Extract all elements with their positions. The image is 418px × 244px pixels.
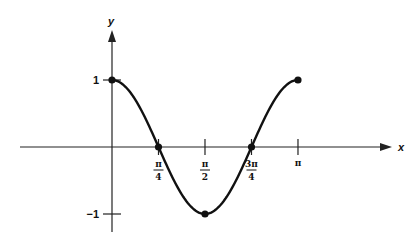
x-axis: x	[20, 141, 405, 153]
y-axis-arrow-icon	[108, 30, 116, 42]
y-axis: y	[107, 15, 116, 232]
data-point	[248, 143, 255, 150]
x-tick-label-denominator: 4	[248, 172, 254, 182]
y-axis-label: y	[107, 15, 115, 27]
x-tick-label-denominator: 4	[155, 172, 161, 182]
x-tick-label: π	[295, 158, 302, 168]
x-tick-label-denominator: 2	[202, 172, 208, 182]
cosine-chart: x y π4π23π4π1−1	[0, 0, 418, 244]
data-point	[201, 210, 208, 217]
x-tick-label-numerator: π	[202, 159, 209, 169]
x-tick-label-numerator: π	[155, 159, 162, 169]
data-point	[155, 143, 162, 150]
y-tick-label: 1	[93, 74, 99, 86]
data-point	[108, 76, 115, 83]
data-point	[294, 76, 301, 83]
y-tick-label: −1	[86, 208, 99, 220]
x-axis-label: x	[397, 141, 405, 153]
x-tick-label-numerator: 3π	[245, 159, 258, 169]
x-axis-arrow-icon	[380, 143, 392, 151]
